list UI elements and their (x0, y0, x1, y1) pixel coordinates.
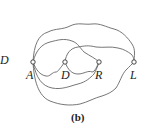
node-label-D: D (60, 68, 70, 82)
graph-diagram: D A D R L (b) (0, 0, 147, 133)
node-label-R: R (94, 68, 103, 82)
node-D (63, 60, 67, 64)
node-L (132, 60, 136, 64)
side-label: D (0, 53, 9, 67)
node-label-L: L (129, 68, 137, 82)
node-A (31, 60, 35, 64)
edge-D-R-lower (65, 62, 99, 74)
node-R (97, 60, 101, 64)
node-label-A: A (25, 68, 34, 82)
figure-caption: (b) (71, 111, 85, 124)
edge-A-L-bottom (33, 62, 134, 105)
